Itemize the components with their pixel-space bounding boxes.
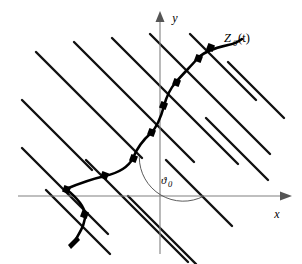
lattice-line [36, 52, 142, 158]
x-axis-arrowhead [280, 192, 292, 201]
lattice-line [128, 196, 196, 264]
x-axis-label: x [273, 207, 280, 221]
crossing-node [80, 210, 89, 219]
figure-container: x y Z 0 (t) ϑ 0 [0, 0, 302, 264]
lattice-line [228, 62, 284, 118]
lattice-line [112, 38, 238, 164]
trajectory-figure-canvas: x y Z 0 (t) ϑ 0 [0, 0, 302, 264]
y-axis-arrowhead [156, 11, 165, 22]
curve-label-z: Z [224, 31, 232, 45]
crossing-node-group [62, 43, 215, 219]
angle-label-subscript: 0 [168, 179, 173, 189]
angle-label-theta: ϑ [161, 174, 167, 186]
trajectory-direction-arrowhead [68, 236, 80, 249]
lattice-line [166, 160, 232, 226]
curve-label-argument: (t) [238, 31, 250, 45]
lattice-line-group [22, 34, 284, 264]
lattice-line [206, 118, 268, 180]
crossing-node [100, 171, 109, 180]
y-axis-label: y [171, 11, 178, 25]
angle-label: ϑ 0 [161, 174, 173, 189]
